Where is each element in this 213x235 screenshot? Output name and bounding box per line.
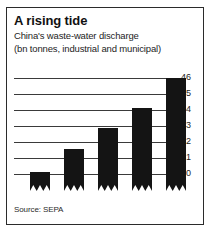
chart-inner: A rising tide China's waste-water discha… bbox=[7, 8, 203, 224]
axis-break-zigzag-icon bbox=[64, 183, 84, 191]
gridline bbox=[14, 94, 172, 95]
gridline bbox=[14, 78, 172, 79]
bar bbox=[64, 149, 84, 184]
chart-figure: A rising tide China's waste-water discha… bbox=[6, 7, 204, 225]
axis-break-zigzag-icon bbox=[132, 183, 152, 191]
chart-source: Source: SEPA bbox=[14, 205, 63, 214]
bar bbox=[166, 78, 186, 184]
plot-area: 4041424344454619992000010203 bbox=[14, 64, 172, 178]
bar bbox=[30, 172, 50, 184]
axis-break-zigzag-icon bbox=[98, 183, 118, 191]
bar bbox=[98, 128, 118, 184]
axis-break-zigzag-icon bbox=[30, 183, 50, 191]
chart-subtitle-line-1: China's waste-water discharge bbox=[14, 30, 139, 41]
chart-subtitle-line-2: (bn tonnes, industrial and municipal) bbox=[14, 43, 161, 54]
chart-title: A rising tide bbox=[14, 13, 87, 28]
axis-break-zigzag-icon bbox=[166, 183, 186, 191]
bar bbox=[132, 108, 152, 184]
